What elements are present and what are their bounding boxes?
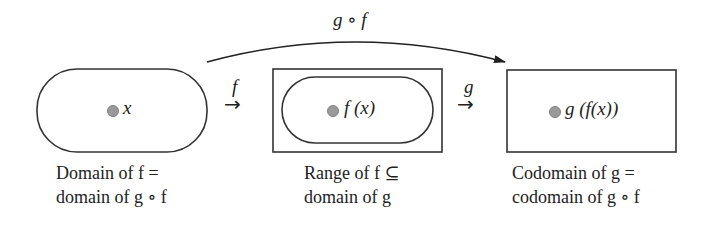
element-x-dot: [107, 105, 119, 117]
codomain-caption-line2: codomain of g ∘ f: [512, 185, 640, 209]
domain-caption-line2: domain of g ∘ f: [56, 185, 167, 209]
domain-of-f-shape: [37, 69, 207, 152]
element-fx-dot: [327, 105, 339, 117]
codomain-caption-line1: Codomain of g =: [512, 161, 635, 185]
element-gfx-label: g (f(x)): [565, 98, 618, 120]
element-x-label: x: [123, 97, 131, 119]
element-fx-label: f (x): [344, 97, 375, 119]
map-f-arrow-icon: →: [224, 92, 241, 116]
range-caption-line1: Range of f ⊆: [304, 161, 400, 185]
range-caption-line2: domain of g: [304, 185, 391, 209]
domain-caption-line1: Domain of f =: [56, 161, 159, 185]
element-gfx-dot: [549, 106, 561, 118]
composition-label: g ∘ f: [333, 8, 367, 31]
map-g-arrow-icon: →: [457, 92, 474, 116]
composition-arc: [207, 42, 505, 62]
